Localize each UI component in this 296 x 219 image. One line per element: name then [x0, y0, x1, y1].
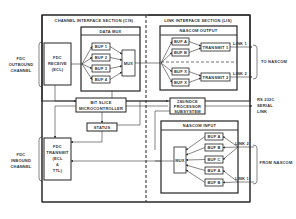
- in-link-2-label: LINK 2: [235, 141, 249, 146]
- in-buf-a1-label: BUF A: [207, 134, 220, 139]
- fdc-inbound-label-2: INBOUND: [11, 158, 31, 163]
- from-nascom-label: FROM NASCOM: [260, 160, 293, 165]
- in-buf-c-label: BUF C: [207, 157, 220, 162]
- cis-title: CHANNEL INTERFACE SECTION (CIS): [55, 18, 134, 23]
- bit-slice-line1: BIT SLICE: [90, 100, 111, 105]
- lis-title: LINK INTERFACE SECTION (LIS): [164, 18, 232, 23]
- buf-2-label: BUF 2: [95, 55, 108, 60]
- fdc-inbound-label-3: CHANNEL: [11, 164, 32, 169]
- rs232-label-3: LINK: [257, 109, 267, 114]
- fdc-outbound-label-2: OUTBOUND: [9, 62, 34, 67]
- in-buf-b2-label: BUF B: [207, 180, 220, 185]
- out-link-1-label: LINK 1: [233, 41, 247, 46]
- rs232-label-2: SERIAL: [257, 103, 273, 108]
- in-link-1-label: LINK 1: [235, 176, 249, 181]
- out-buf-x2-label: BUF X: [174, 80, 187, 85]
- data-mux-title: DATA MUX: [100, 29, 122, 34]
- fdc-receive-line1: FDC: [53, 55, 62, 60]
- buf-4-label: BUF 4: [95, 77, 108, 82]
- fdc-outbound-label-3: CHANNEL: [11, 68, 32, 73]
- fdc-receive-line3: (ECL): [52, 67, 64, 72]
- in-buf-b1-label: BUF B: [207, 145, 220, 150]
- fdc-transmit-line1: FDC: [53, 144, 62, 149]
- fdc-inbound-label-1: FDC: [17, 152, 26, 157]
- to-nascom-label: TO NASCOM: [261, 59, 288, 64]
- rs232-label-1: RS 232C: [257, 97, 275, 102]
- fdc-receive-line2: RECEIVE: [48, 61, 67, 66]
- from-nascom-brace: [253, 145, 257, 184]
- buf-3-label: BUF 3: [95, 66, 108, 71]
- z80-line3: SUBSYSTEM: [174, 109, 201, 114]
- nascom-input-mux-label: MUX: [175, 158, 185, 163]
- fdc-outbound-label-1: FDC: [17, 56, 26, 61]
- out-buf-b-label: BUF B: [174, 50, 187, 55]
- transmit-1-label: TRANSMIT 1: [203, 45, 230, 50]
- bit-slice-line2: MICROCONTROLLER: [79, 106, 123, 111]
- to-nascom-brace: [253, 45, 257, 79]
- fdc-transmit-line5: TTL): [53, 168, 63, 173]
- transmit-2-label: TRANSMIT 2: [203, 75, 230, 80]
- out-link-2-label: LINK 2: [233, 71, 247, 76]
- system-block-diagram: CHANNEL INTERFACE SECTION (CIS) LINK INT…: [0, 0, 296, 219]
- fdc-transmit-line2: TRANSMIT: [46, 150, 69, 155]
- in-buf-a2-label: BUF A: [207, 168, 220, 173]
- nascom-input-title: NASCOM INPUT: [183, 123, 217, 128]
- out-buf-a-label: BUF A: [174, 39, 187, 44]
- status-label: STATUS: [94, 125, 111, 130]
- fdc-transmit-line4: &: [56, 162, 59, 167]
- data-mux-mux-label: MUX: [124, 61, 134, 66]
- buf-1-label: BUF 1: [95, 44, 108, 49]
- nascom-output-title: NASCOM OUTPUT: [180, 28, 218, 33]
- fdc-transmit-line3: (ECL: [52, 156, 62, 161]
- out-buf-x1-label: BUF X: [174, 69, 187, 74]
